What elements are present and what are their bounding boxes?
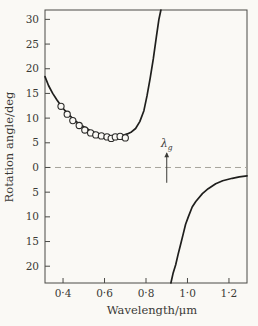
data-point <box>76 122 82 128</box>
lambda-marker-arrowhead <box>164 152 169 157</box>
lambda-marker-label: λg <box>160 137 173 152</box>
frame-box <box>45 10 247 283</box>
curve-above-resonance <box>171 176 247 283</box>
y-tick-label: 10 <box>26 210 39 222</box>
data-point <box>122 135 128 141</box>
dispersion-curves <box>45 10 247 283</box>
y-tick-label: 20 <box>26 260 39 272</box>
y-tick-label: 5 <box>32 136 39 148</box>
plot-frame <box>45 10 247 283</box>
x-axis-ticks: 0·40·60·81·01·2 <box>55 278 238 299</box>
y-tick-label: 10 <box>26 112 39 124</box>
x-tick-label: 0·6 <box>96 287 113 299</box>
experimental-data-points <box>58 103 129 141</box>
curve-below-resonance <box>45 10 161 136</box>
lambda-g-marker: λg <box>160 137 173 183</box>
data-point <box>64 111 70 117</box>
x-tick-label: 1·2 <box>221 287 238 299</box>
data-point <box>70 118 76 124</box>
y-tick-label: 15 <box>26 235 39 247</box>
x-tick-label: 1·0 <box>179 287 196 299</box>
rotation-dispersion-chart: 3025201510505101520 0·40·60·81·01·2 λg R… <box>0 0 258 326</box>
y-axis-ticks: 3025201510505101520 <box>26 13 50 272</box>
y-tick-label: 30 <box>26 13 39 25</box>
y-tick-label: 25 <box>26 38 39 50</box>
data-point <box>82 127 88 133</box>
x-tick-label: 0·4 <box>55 287 72 299</box>
y-tick-label: 0 <box>32 161 39 173</box>
figure-rotation-dispersion: 3025201510505101520 0·40·60·81·01·2 λg R… <box>0 0 258 326</box>
y-tick-label: 15 <box>26 87 39 99</box>
y-tick-label: 20 <box>26 62 39 74</box>
y-axis-title: Rotation angle/deg <box>2 91 16 202</box>
x-axis-title: Wavelength/μm <box>107 303 198 317</box>
y-tick-label: 5 <box>32 186 39 198</box>
data-point <box>58 103 64 109</box>
x-tick-label: 0·8 <box>138 287 155 299</box>
